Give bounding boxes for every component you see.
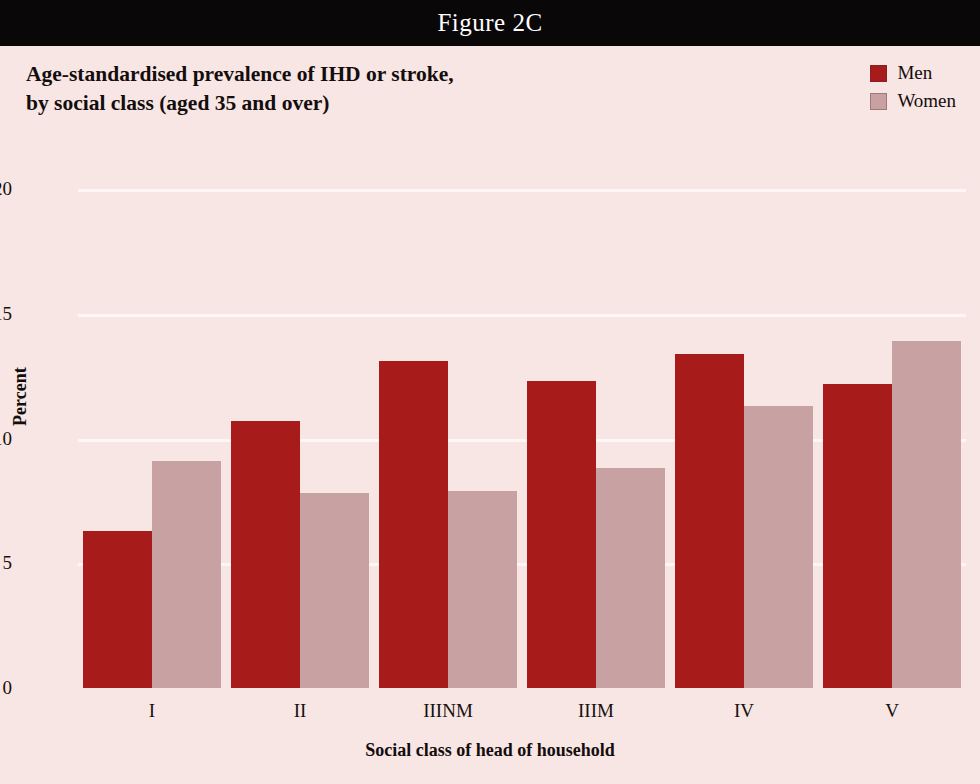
bar-V-men (823, 384, 892, 688)
y-tick-label-10: 10 (0, 428, 12, 450)
bar-IIINM-women (448, 491, 517, 688)
bar-IV-men (675, 354, 744, 688)
bar-IIIM-men (527, 381, 596, 688)
y-tick-label-0: 0 (0, 677, 12, 699)
bar-V-women (892, 341, 961, 688)
x-category-label-IIIM: IIIM (522, 700, 670, 722)
y-tick-label-5: 5 (0, 552, 12, 574)
gridline-15 (78, 314, 966, 317)
x-category-label-V: V (818, 700, 966, 722)
bar-II-men (231, 421, 300, 688)
figure-number-label: Figure 2C (437, 9, 542, 37)
bar-IIIM-women (596, 468, 665, 688)
y-tick-label-20: 20 (0, 178, 12, 200)
plot-wrapper: Percent 05101520 IIIIIINMIIIMIVV Social … (0, 46, 980, 784)
x-category-label-IIINM: IIINM (374, 700, 522, 722)
x-category-label-IV: IV (670, 700, 818, 722)
x-category-label-I: I (78, 700, 226, 722)
y-tick-label-15: 15 (0, 303, 12, 325)
figure-body-panel: Age-standardised prevalence of IHD or st… (0, 46, 980, 784)
plot-area (78, 189, 966, 688)
x-axis-title: Social class of head of household (0, 740, 980, 761)
y-axis-title: Percent (10, 367, 31, 426)
bar-IV-women (744, 406, 813, 688)
x-category-label-II: II (226, 700, 374, 722)
bar-I-men (83, 531, 152, 688)
bar-I-women (152, 461, 221, 688)
figure-header-band: Figure 2C (0, 0, 980, 46)
bar-IIINM-men (379, 361, 448, 688)
bar-II-women (300, 493, 369, 688)
gridline-20 (78, 189, 966, 192)
